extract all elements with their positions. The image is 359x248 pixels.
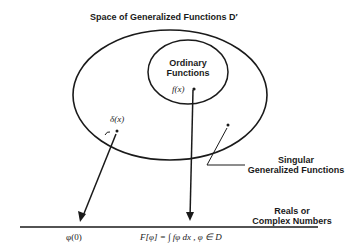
reals-line2: Complex Numbers: [250, 216, 334, 226]
f-x-label: f(x): [172, 84, 185, 94]
ordinary-functions-label: Ordinary Functions: [158, 58, 218, 78]
phi-zero-label: φ(0): [66, 232, 82, 242]
functional-label: F[φ] = ∫ fφ dx , φ ∈ D: [140, 232, 222, 242]
reals-line1: Reals or: [250, 206, 334, 216]
generalized-functions-diagram: Space of Generalized Functions D′ Ordina…: [0, 0, 359, 248]
ordinary-line2: Functions: [158, 68, 218, 78]
delta-x-label: δ(x): [110, 114, 124, 124]
delta-point-dot: [116, 130, 119, 133]
singular-line1: Singular: [246, 155, 346, 165]
outer-ellipse-generalized-functions: [73, 30, 267, 160]
singular-label: Singular Generalized Functions: [246, 155, 346, 175]
delta-small-arc: [105, 132, 110, 135]
f-arrow: [190, 90, 193, 218]
singular-line2: Generalized Functions: [246, 165, 346, 175]
singular-point-dot: [227, 124, 230, 127]
delta-arrow: [83, 134, 116, 216]
ordinary-line1: Ordinary: [158, 58, 218, 68]
reals-label: Reals or Complex Numbers: [250, 206, 334, 226]
title-label: Space of Generalized Functions D′: [90, 12, 238, 22]
singular-leader-line: [207, 128, 245, 165]
